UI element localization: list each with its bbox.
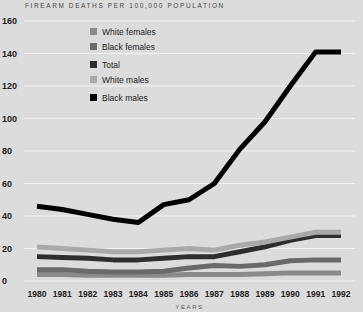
x-tick-label: 1986 bbox=[180, 289, 199, 299]
legend-label: Black females bbox=[102, 42, 155, 52]
legend-label: Total bbox=[102, 60, 120, 70]
legend-swatch bbox=[90, 76, 97, 83]
y-tick-label: 140 bbox=[2, 49, 17, 59]
x-tick-label: 1981 bbox=[53, 289, 72, 299]
x-tick-label: 1982 bbox=[78, 289, 97, 299]
series-line-black-males bbox=[37, 52, 341, 223]
legend-item: White females bbox=[90, 24, 156, 39]
x-tick-label: 1989 bbox=[256, 289, 275, 299]
x-tick-label: 1991 bbox=[306, 289, 325, 299]
legend-swatch bbox=[90, 43, 97, 50]
legend-swatch bbox=[90, 28, 97, 35]
y-tick-label: 100 bbox=[2, 114, 17, 124]
x-tick-label: 1987 bbox=[205, 289, 224, 299]
legend-item: Black males bbox=[90, 90, 156, 105]
y-tick-label: 40 bbox=[2, 211, 12, 221]
x-tick-label: 1992 bbox=[332, 289, 351, 299]
legend-label: White males bbox=[102, 75, 149, 85]
y-tick-label: 80 bbox=[2, 146, 12, 156]
x-tick-label: 1980 bbox=[28, 289, 47, 299]
line-chart: 0204060801001201401601980198119821983198… bbox=[0, 0, 363, 312]
x-tick-label: 1983 bbox=[104, 289, 123, 299]
legend-swatch bbox=[90, 61, 97, 68]
legend-swatch bbox=[90, 94, 97, 101]
y-tick-label: 60 bbox=[2, 179, 12, 189]
legend-item: Total bbox=[90, 57, 156, 72]
legend-item: Black females bbox=[90, 39, 156, 54]
y-tick-label: 160 bbox=[2, 16, 17, 26]
x-tick-label: 1985 bbox=[154, 289, 173, 299]
x-tick-label: 1990 bbox=[281, 289, 300, 299]
y-tick-label: 120 bbox=[2, 81, 17, 91]
series-line-black-females bbox=[37, 260, 341, 272]
legend-label: White females bbox=[102, 27, 156, 37]
x-tick-label: 1988 bbox=[230, 289, 249, 299]
legend-label: Black males bbox=[102, 93, 148, 103]
y-tick-label: 0 bbox=[2, 276, 7, 286]
x-axis-label: YEARS bbox=[175, 304, 203, 310]
x-tick-label: 1984 bbox=[129, 289, 148, 299]
legend-item: White males bbox=[90, 72, 156, 87]
legend: White femalesBlack femalesTotalWhite mal… bbox=[90, 24, 156, 105]
y-tick-label: 20 bbox=[2, 244, 12, 254]
